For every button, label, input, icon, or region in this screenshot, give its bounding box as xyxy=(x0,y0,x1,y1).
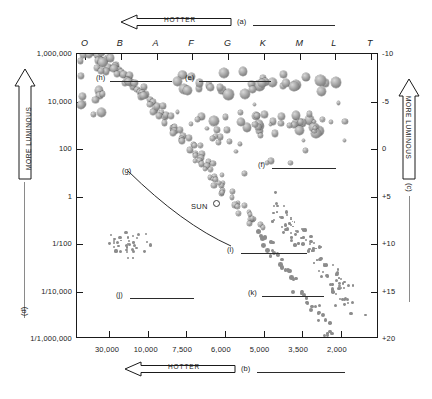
luminosity-label-3: 1 xyxy=(68,192,72,201)
callout-h-key: (h) xyxy=(96,73,105,82)
right-more-luminous-label: MORE LUMINOUS xyxy=(405,96,412,159)
callout-g-key: (g) xyxy=(122,166,131,175)
temperature-label-5: 3,500 xyxy=(288,345,308,354)
callout-j-leader xyxy=(130,298,194,299)
callout-c-key: (c) xyxy=(405,183,414,192)
luminosity-label-6: 1/1,000,000 xyxy=(30,334,72,343)
temperature-label-4: 5,000 xyxy=(250,345,270,354)
spectral-class-K: K xyxy=(260,38,266,48)
temperature-label-3: 6,000 xyxy=(211,345,231,354)
left-more-luminous-label: MORE LUMINOUS xyxy=(25,107,32,170)
magnitude-label-0: -10 xyxy=(382,49,393,58)
bottom-hotter-label: HOTTER xyxy=(168,364,200,371)
spectral-class-F: F xyxy=(188,38,194,48)
temperature-label-1: 10,000 xyxy=(134,345,158,354)
luminosity-label-1: 10,000 xyxy=(48,97,72,106)
luminosity-label-2: 100 xyxy=(59,144,72,153)
callout-b-key: (b) xyxy=(241,364,250,373)
luminosity-label-4: 1/100 xyxy=(52,239,72,248)
temperature-label-2: 7,500 xyxy=(172,345,192,354)
spectral-class-A: A xyxy=(153,38,159,48)
luminosity-label-5: 1/10,000 xyxy=(41,287,72,296)
spectral-class-M: M xyxy=(296,38,304,48)
callout-k-key: (k) xyxy=(248,288,257,297)
magnitude-label-2: 0 xyxy=(382,144,386,153)
spectral-class-O: O xyxy=(81,38,88,48)
callout-e-leader xyxy=(199,81,271,82)
callout-h-leader xyxy=(110,81,172,82)
magnitude-label-5: +15 xyxy=(382,287,395,296)
callout-f-leader xyxy=(272,168,336,169)
magnitude-label-1: -5 xyxy=(382,97,389,106)
luminosity-label-0: 1,000,000 xyxy=(37,49,72,58)
callout-b-leader xyxy=(257,372,345,373)
callout-a-leader xyxy=(253,25,335,26)
magnitude-label-4: +10 xyxy=(382,239,395,248)
callout-e-key: (e) xyxy=(185,73,194,82)
callout-j-key: (j) xyxy=(116,290,123,299)
magnitude-label-3: +5 xyxy=(382,192,391,201)
temperature-label-0: 30,000 xyxy=(95,345,119,354)
callout-i-key: (i) xyxy=(227,245,234,254)
callout-a-key: (a) xyxy=(237,17,246,26)
callout-d-leader xyxy=(24,182,25,318)
magnitude-label-6: +20 xyxy=(382,334,395,343)
spectral-class-L: L xyxy=(331,38,336,48)
spectral-class-G: G xyxy=(224,38,231,48)
temperature-label-6: 2,000 xyxy=(327,345,347,354)
callout-i-leader xyxy=(241,253,307,254)
hr-diagram-figure: HOTTER (a) OBAFGKMLT 1,000,00010,0001001… xyxy=(0,0,432,399)
top-hotter-label: HOTTER xyxy=(164,17,196,24)
callout-f-key: (f) xyxy=(258,160,265,169)
callout-k-leader xyxy=(262,296,324,297)
spectral-class-B: B xyxy=(117,38,123,48)
spectral-class-T: T xyxy=(367,38,373,48)
callout-d-key: (d) xyxy=(19,307,28,316)
callout-c-leader xyxy=(409,196,410,302)
